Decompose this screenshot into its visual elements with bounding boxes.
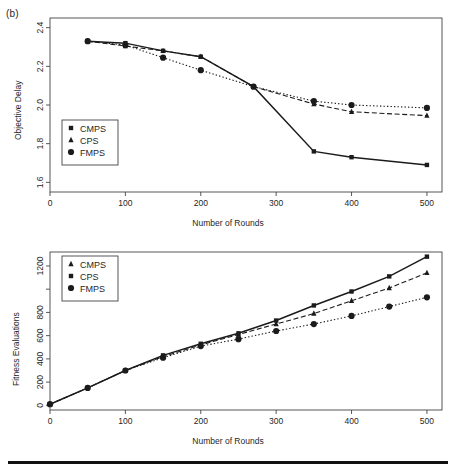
x-axis-tick-label: 500	[420, 198, 434, 208]
legend-label-fmps: FMPS	[80, 284, 105, 294]
data-point-circle	[273, 328, 279, 334]
legend-label-cmps: CMPS	[80, 260, 106, 270]
legend-label-cmps: CMPS	[80, 124, 106, 134]
data-point-circle	[311, 98, 317, 104]
data-point-square	[236, 331, 240, 335]
data-point-circle	[160, 355, 166, 361]
x-axis-title-bottom: Number of Rounds	[0, 436, 456, 446]
y-axis-tick-label: 2.4	[35, 21, 45, 33]
data-point-circle	[68, 285, 74, 291]
plot-frame	[50, 18, 442, 192]
x-axis-tick-label: 0	[48, 198, 53, 208]
x-axis-tick-label: 500	[420, 416, 434, 426]
data-point-square	[349, 289, 353, 293]
data-point-circle	[85, 385, 91, 391]
series-line-cps	[88, 41, 427, 115]
legend-label-cps: CPS	[80, 136, 99, 146]
data-point-square	[274, 318, 278, 322]
data-point-circle	[198, 67, 204, 73]
y-axis-title-top: Objective Delay	[13, 80, 23, 140]
x-axis-tick-label: 200	[194, 198, 208, 208]
data-point-triangle	[424, 270, 429, 275]
data-point-circle	[235, 336, 241, 342]
data-point-circle	[122, 367, 128, 373]
page-edge-rule	[8, 461, 448, 464]
data-point-square	[69, 274, 73, 278]
x-axis-tick-label: 200	[194, 416, 208, 426]
data-point-circle	[85, 38, 91, 44]
y-axis-tick-label: 600	[35, 328, 45, 342]
x-axis-title-top: Number of Rounds	[0, 218, 456, 228]
data-point-square	[349, 155, 353, 159]
series-line-fmps	[50, 297, 427, 404]
y-axis-tick-label: 2.2	[35, 60, 45, 72]
y-axis-tick-label: 400	[35, 352, 45, 366]
y-axis-tick-label: 2.0	[35, 99, 45, 111]
fitness-evaluations-plot: 010020030040050002004006008001200CMPSCPS…	[0, 236, 456, 458]
y-axis-tick-label: 1200	[35, 256, 45, 275]
chart-objective-delay: 01002003004005001.61.82.02.22.4CMPSCPSFM…	[0, 0, 456, 236]
data-point-circle	[68, 149, 74, 155]
data-point-circle	[250, 84, 256, 90]
data-point-circle	[160, 55, 166, 61]
data-point-circle	[122, 42, 128, 48]
data-point-circle	[348, 313, 354, 319]
series-line-cmps	[88, 41, 427, 165]
data-point-square	[425, 254, 429, 258]
data-point-circle	[386, 304, 392, 310]
data-point-circle	[311, 321, 317, 327]
data-point-circle	[424, 294, 430, 300]
series-line-fmps	[88, 41, 427, 108]
data-point-square	[312, 303, 316, 307]
x-axis-tick-label: 100	[118, 416, 132, 426]
x-axis-tick-label: 0	[48, 416, 53, 426]
x-axis-tick-label: 400	[344, 416, 358, 426]
y-axis-tick-label: 200	[35, 375, 45, 389]
x-axis-tick-label: 100	[118, 198, 132, 208]
x-axis-tick-label: 300	[269, 198, 283, 208]
y-axis-tick-label: 0	[35, 403, 45, 408]
x-axis-tick-label: 400	[344, 198, 358, 208]
data-point-circle	[424, 105, 430, 111]
data-point-square	[69, 126, 73, 130]
data-point-circle	[348, 102, 354, 108]
legend-label-cps: CPS	[80, 272, 99, 282]
chart-fitness-evaluations: 010020030040050002004006008001200CMPSCPS…	[0, 236, 456, 458]
y-axis-tick-label: 800	[35, 305, 45, 319]
y-axis-tick-label: 1.8	[35, 137, 45, 149]
data-point-circle	[47, 401, 53, 407]
data-point-square	[312, 149, 316, 153]
data-point-circle	[198, 343, 204, 349]
data-point-square	[387, 274, 391, 278]
x-axis-tick-label: 300	[269, 416, 283, 426]
y-axis-title-bottom: Fitness Evaluations	[11, 312, 21, 386]
figure-panel-b: (b) 01002003004005001.61.82.02.22.4CMPSC…	[0, 0, 456, 476]
y-axis-tick-label: 1.6	[35, 176, 45, 188]
data-point-square	[425, 163, 429, 167]
legend-label-fmps: FMPS	[80, 148, 105, 158]
objective-delay-plot: 01002003004005001.61.82.02.22.4CMPSCPSFM…	[0, 0, 456, 236]
